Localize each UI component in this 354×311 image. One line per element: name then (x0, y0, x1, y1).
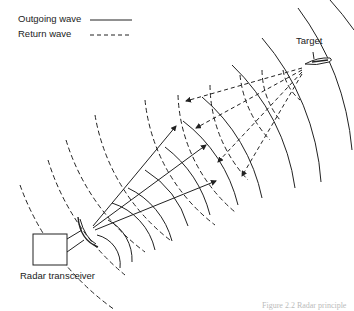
target-label: Target (296, 35, 322, 46)
transceiver-label: Radar transceiver (20, 270, 95, 281)
diagram-canvas (0, 0, 354, 311)
legend-return-label: Return wave (18, 28, 71, 39)
target-icon (305, 52, 331, 65)
figure-caption: Figure 2.2 Radar principle (262, 301, 346, 310)
transceiver-box (33, 234, 67, 265)
return-rays (186, 68, 302, 176)
radar-diagram: Outgoing wave Return wave Target Radar t… (0, 0, 354, 311)
legend-outgoing-label: Outgoing wave (18, 13, 81, 24)
